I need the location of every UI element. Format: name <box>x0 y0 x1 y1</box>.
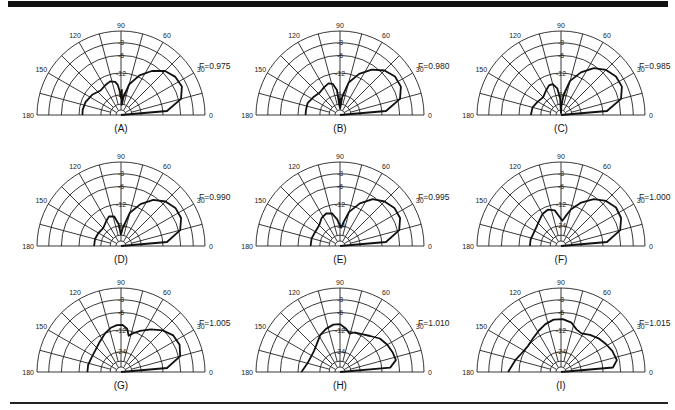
angle-tick-label: 90 <box>336 153 344 160</box>
grid-spoke <box>348 187 400 239</box>
grid-spoke <box>519 173 558 241</box>
db-tick-label: -24 <box>116 348 126 355</box>
db-tick-label: -3 <box>118 39 124 46</box>
grid-spoke <box>343 42 382 110</box>
angle-tick-label: 120 <box>509 32 521 39</box>
polar-pattern-figure: 0306090120150180-3-6-12-24F=0.975(A)0306… <box>0 0 675 410</box>
frequency-annotation: F=1.010 <box>418 318 450 328</box>
db-tick-label: -12 <box>556 70 566 77</box>
db-tick-label: -12 <box>116 70 126 77</box>
grid-spoke <box>267 73 335 112</box>
angle-tick-label: 120 <box>69 163 81 170</box>
angle-tick-label: 150 <box>35 197 47 204</box>
panel-label: (B) <box>333 123 346 134</box>
grid-spoke <box>124 299 163 367</box>
angle-tick-label: 0 <box>209 243 213 250</box>
polar-panel-f: 0306090120150180-3-6-12-24F=1.000(F) <box>462 153 670 265</box>
grid-spoke <box>124 173 163 241</box>
grid-spoke <box>344 330 412 369</box>
db-tick-label: -6 <box>118 309 124 316</box>
db-tick-label: -6 <box>558 183 564 190</box>
db-tick-label: -3 <box>337 170 343 177</box>
db-tick-label: -24 <box>556 222 566 229</box>
grid-spoke <box>344 73 412 112</box>
db-tick-label: -6 <box>337 183 343 190</box>
polar-panel-i: 0306090120150180-3-6-12-24F=1.015(I) <box>462 279 670 391</box>
angle-tick-label: 90 <box>117 279 125 286</box>
angle-tick-label: 90 <box>336 22 344 29</box>
grid-spoke <box>502 313 554 365</box>
grid-spoke <box>565 204 633 243</box>
db-tick-label: -24 <box>556 348 566 355</box>
grid-spoke <box>129 313 181 365</box>
db-tick-label: -6 <box>337 52 343 59</box>
db-tick-label: -24 <box>335 348 345 355</box>
grid-spoke <box>79 173 118 241</box>
grid-spoke <box>267 204 335 243</box>
angle-tick-label: 90 <box>117 153 125 160</box>
angle-tick-label: 60 <box>603 32 611 39</box>
polar-panel-d: 0306090120150180-3-6-12-24F=0.990(D) <box>22 153 230 265</box>
angle-tick-label: 180 <box>22 112 34 119</box>
grid-spoke <box>281 56 333 108</box>
db-tick-label: -6 <box>118 52 124 59</box>
angle-tick-label: 0 <box>209 112 213 119</box>
grid-spoke <box>281 187 333 239</box>
grid-spoke <box>129 187 181 239</box>
angle-tick-label: 0 <box>649 243 653 250</box>
grid-spoke <box>281 313 333 365</box>
db-tick-label: -6 <box>118 183 124 190</box>
grid-spoke <box>348 56 400 108</box>
panel-label: (G) <box>114 380 128 391</box>
angle-tick-label: 150 <box>475 197 487 204</box>
polar-panel-a: 0306090120150180-3-6-12-24F=0.975(A) <box>22 22 230 134</box>
angle-tick-label: 60 <box>382 163 390 170</box>
angle-tick-label: 150 <box>254 197 266 204</box>
angle-tick-label: 180 <box>22 243 34 250</box>
angle-tick-label: 0 <box>649 112 653 119</box>
angle-tick-label: 150 <box>475 66 487 73</box>
angle-tick-label: 90 <box>117 22 125 29</box>
angle-tick-label: 150 <box>475 323 487 330</box>
angle-tick-label: 90 <box>557 153 565 160</box>
db-tick-label: -12 <box>335 201 345 208</box>
frequency-annotation: F=1.000 <box>639 192 671 202</box>
db-tick-label: -3 <box>558 170 564 177</box>
panel-label: (A) <box>114 123 127 134</box>
angle-tick-label: 60 <box>163 289 171 296</box>
radiation-pattern-curve <box>531 68 622 115</box>
radiation-pattern-curve <box>94 200 181 246</box>
grid-spoke <box>488 330 556 369</box>
angle-tick-label: 180 <box>462 369 474 376</box>
angle-tick-label: 60 <box>163 32 171 39</box>
grid-spoke <box>569 313 621 365</box>
angle-tick-label: 60 <box>603 289 611 296</box>
db-tick-label: -12 <box>116 201 126 208</box>
panel-label: (C) <box>554 123 568 134</box>
panel-label: (F) <box>555 254 568 265</box>
grid-spoke <box>62 187 114 239</box>
radiation-pattern-curve <box>311 199 401 246</box>
grid-spoke <box>348 313 400 365</box>
db-tick-label: -3 <box>558 296 564 303</box>
angle-tick-label: 60 <box>382 289 390 296</box>
frequency-annotation: F=0.980 <box>418 61 450 71</box>
angle-tick-label: 120 <box>509 163 521 170</box>
grid-spoke <box>343 173 382 241</box>
frequency-annotation: F=0.985 <box>639 61 671 71</box>
polar-panel-e: 0306090120150180-3-6-12-24F=0.995(E) <box>241 153 449 265</box>
angle-tick-label: 120 <box>69 32 81 39</box>
angle-tick-label: 120 <box>288 32 300 39</box>
grid-spoke <box>129 56 181 108</box>
angle-tick-label: 0 <box>209 369 213 376</box>
polar-panel-h: 0306090120150180-3-6-12-24F=1.010(H) <box>241 279 449 391</box>
grid-spoke <box>344 204 412 243</box>
angle-tick-label: 0 <box>428 243 432 250</box>
frequency-annotation: F=1.005 <box>199 318 231 328</box>
angle-tick-label: 90 <box>336 279 344 286</box>
angle-tick-label: 0 <box>428 369 432 376</box>
polar-panel-b: 0306090120150180-3-6-12-24F=0.980(B) <box>241 22 449 134</box>
db-tick-label: -3 <box>118 170 124 177</box>
db-tick-label: -3 <box>337 296 343 303</box>
db-tick-label: -3 <box>558 39 564 46</box>
